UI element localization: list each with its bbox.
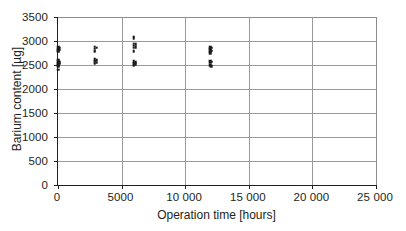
x-axis-tick <box>312 185 313 189</box>
data-point <box>94 50 97 53</box>
x-axis-tick-label: 10 000 <box>166 191 202 203</box>
x-axis-tick <box>185 185 186 189</box>
x-axis-tick-label: 0 <box>54 191 61 203</box>
y-axis-tick <box>54 89 58 90</box>
gridline-vertical <box>312 17 313 185</box>
y-axis-tick <box>54 17 58 18</box>
data-point <box>132 37 135 40</box>
data-point <box>132 50 135 53</box>
y-axis-tick-label: 2000 <box>22 83 48 95</box>
data-point <box>210 49 213 52</box>
data-point <box>210 65 213 68</box>
x-axis-tick <box>249 185 250 189</box>
data-point <box>58 62 61 65</box>
x-axis-tick-label: 5000 <box>108 191 134 203</box>
y-axis-tick-label: 2500 <box>22 59 48 71</box>
data-point <box>134 63 137 66</box>
x-axis-tick <box>58 185 59 189</box>
y-axis-tick-label: 1000 <box>22 131 48 143</box>
y-axis-tick <box>54 137 58 138</box>
gridline-horizontal <box>58 89 376 90</box>
gridline-horizontal <box>58 113 376 114</box>
plot-area <box>57 17 376 186</box>
x-axis-tick-label: 25 000 <box>357 191 393 203</box>
y-axis-title: Barium content [µg] <box>10 14 24 184</box>
data-point <box>58 48 61 51</box>
data-point <box>57 69 60 72</box>
gridline-horizontal <box>58 41 376 42</box>
gridline-horizontal <box>58 65 376 66</box>
y-axis-tick-label: 3000 <box>22 35 48 47</box>
gridline-horizontal <box>58 137 376 138</box>
gridline-vertical <box>185 17 186 185</box>
y-axis-tick-label: 500 <box>29 155 49 167</box>
x-axis-title: Operation time [hours] <box>57 208 376 222</box>
gridline-vertical <box>249 17 250 185</box>
data-point <box>57 65 60 68</box>
x-axis-tick-label: 15 000 <box>230 191 266 203</box>
x-axis-tick <box>122 185 123 189</box>
x-axis-tick <box>376 185 377 189</box>
y-axis-tick <box>54 161 58 162</box>
data-point <box>95 46 98 49</box>
data-point <box>209 52 212 55</box>
y-axis-tick-label-group: 0500100015002000250030003500 <box>0 17 48 186</box>
y-axis-tick <box>54 113 58 114</box>
data-point <box>134 46 137 49</box>
gridline-horizontal <box>58 17 376 18</box>
y-axis-tick-label: 0 <box>42 179 49 191</box>
y-axis-tick-label: 1500 <box>22 107 48 119</box>
gridline-vertical <box>122 17 123 185</box>
y-axis-tick <box>54 41 58 42</box>
y-axis-tick-label: 3500 <box>22 11 48 23</box>
data-point <box>210 60 213 63</box>
x-axis-tick-label-group: 0500010 00015 00020 00025 000 <box>57 191 376 207</box>
scatter-chart-figure: 0500100015002000250030003500 Barium cont… <box>0 0 406 231</box>
gridline-vertical <box>376 17 377 185</box>
data-point <box>95 61 98 64</box>
x-axis-tick-label: 20 000 <box>294 191 330 203</box>
gridline-horizontal <box>58 161 376 162</box>
